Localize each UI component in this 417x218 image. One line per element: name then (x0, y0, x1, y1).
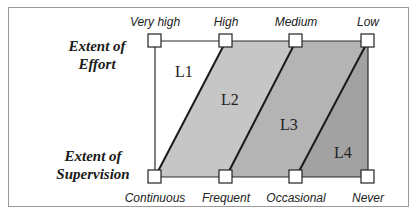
node-continuous (148, 170, 161, 183)
region-label-l1: L1 (175, 64, 193, 80)
effort-title-line2: Effort (42, 55, 152, 73)
effort-axis-title: Extent of Effort (42, 37, 152, 73)
supervision-axis-title: Extent of Supervision (38, 147, 148, 183)
supervision-title-line2: Supervision (38, 165, 148, 183)
node-low (361, 34, 374, 47)
node-occasional (289, 170, 302, 183)
region-label-l3: L3 (280, 117, 298, 133)
node-high (219, 34, 232, 47)
node-frequent (219, 170, 232, 183)
effort-title-line1: Extent of (42, 37, 152, 55)
tick-never: Never (323, 191, 413, 205)
region-label-l2: L2 (221, 92, 239, 108)
region-label-l4: L4 (334, 145, 352, 161)
node-never (361, 170, 374, 183)
tick-low: Low (323, 15, 413, 29)
leadership-diagram (0, 0, 417, 218)
supervision-title-line1: Extent of (38, 147, 148, 165)
node-medium (289, 34, 302, 47)
